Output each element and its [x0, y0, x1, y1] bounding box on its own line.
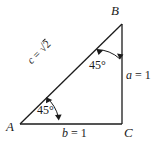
- vertex-label-c: C: [124, 126, 133, 139]
- angle-label-at-b: 45°: [89, 59, 106, 71]
- arrowhead-b-start: [97, 50, 104, 56]
- side-b-equals: =: [68, 126, 81, 140]
- geometry-figure: B A C a = 1 b = 1 c = √2 45° 45°: [0, 0, 161, 158]
- angle-label-at-a: 45°: [37, 104, 54, 116]
- side-label-a: a = 1: [126, 69, 151, 81]
- vertex-label-a: A: [6, 120, 14, 133]
- side-b-value: 1: [81, 126, 87, 140]
- side-a-value: 1: [145, 68, 151, 82]
- side-c-hypotenuse-line: [20, 24, 122, 124]
- vertex-label-b: B: [111, 4, 119, 17]
- side-a-equals: =: [132, 68, 145, 82]
- arrowhead-a-end: [55, 115, 62, 121]
- side-label-b: b = 1: [62, 127, 87, 139]
- triangle-outline: [20, 24, 122, 124]
